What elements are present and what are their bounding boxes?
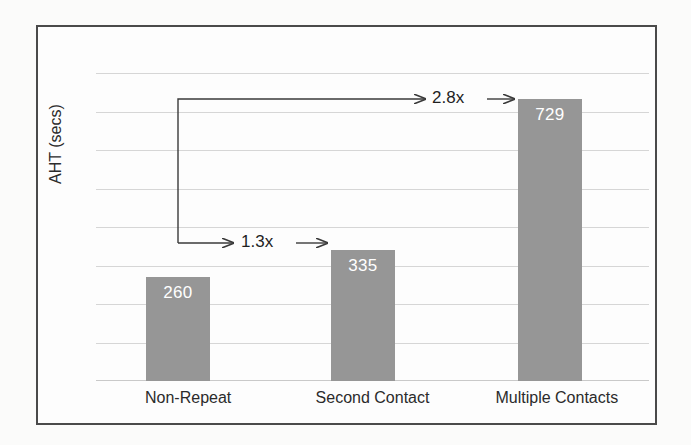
annotation-label-1-3x: 1.3x (241, 232, 273, 252)
bar-multiple-contacts[interactable]: 729 (518, 99, 582, 381)
bar-value-label: 729 (518, 105, 582, 125)
x-label-multiple-contacts: Multiple Contacts (465, 389, 649, 419)
annotation-label-2-8x: 2.8x (432, 88, 464, 108)
x-axis-labels: Non-Repeat Second Contact Multiple Conta… (96, 389, 649, 419)
chart-figure: 260 335 729 2.8x 1.3x AHT (secs) Non-Rep… (0, 0, 691, 445)
bar-value-label: 260 (146, 283, 210, 303)
bar-value-label: 335 (331, 256, 395, 276)
bar-non-repeat[interactable]: 260 (146, 277, 210, 381)
y-axis-label: AHT (secs) (47, 64, 71, 184)
x-label-non-repeat: Non-Repeat (96, 389, 280, 419)
bar-series: 260 335 729 (96, 73, 649, 381)
x-label-second-contact: Second Contact (280, 389, 464, 419)
bar-second-contact[interactable]: 335 (331, 250, 395, 381)
